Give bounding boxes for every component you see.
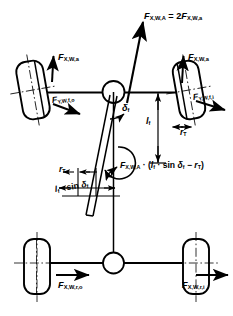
steering-axis-line (86, 95, 117, 216)
diagram-svg (0, 0, 233, 316)
front-right-long-force-label: FX,W,a (188, 53, 209, 63)
moment-equation-arrow (107, 167, 117, 175)
steer-angle-label: δf (122, 104, 130, 114)
front-left-long-force-label: FX,W,a (58, 53, 79, 63)
steer-angle-arc (110, 114, 124, 119)
rear-right-wheel (173, 232, 219, 302)
rt-right-label: rT (180, 128, 187, 138)
rear-axle-joint (103, 253, 124, 274)
front-left-long-force-arrow (52, 56, 54, 82)
lf-dimension (150, 93, 166, 164)
rt-left-label: rT (59, 165, 66, 175)
resultant-force-arrow (127, 22, 143, 103)
figure-canvas: FX,W,A = 2FX,W,a FX,W,a FX,W,a FY,W,f,o … (0, 0, 233, 316)
moment-equation-label: FX,W,A · (lf · sin δf − rT) (120, 161, 204, 171)
lf-dimension-label: lf (146, 117, 150, 127)
front-outer-lateral-force-arrow (53, 104, 80, 114)
rear-left-wheel (14, 232, 60, 302)
rear-outer-long-force-label: FX,W,r,o (58, 281, 83, 291)
resultant-axle-force-label: FX,W,A = 2FX,W,a (144, 12, 202, 22)
rear-inner-long-force-label: FX,W,r,i (182, 281, 205, 291)
